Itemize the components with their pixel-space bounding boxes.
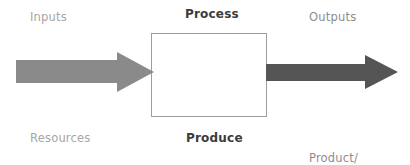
input-arrow-icon	[16, 50, 154, 94]
label-process: Process	[185, 7, 239, 21]
output-arrow-icon	[266, 53, 398, 91]
process-diagram-canvas: Inputs Process Outputs Resources Produce…	[0, 0, 410, 165]
label-resources: Resources	[30, 132, 91, 146]
label-outputs: Outputs	[309, 11, 356, 25]
label-inputs: Inputs	[30, 11, 67, 25]
label-produce: Produce	[186, 131, 243, 145]
label-product-line-1: Product/	[309, 152, 358, 165]
process-box	[151, 33, 267, 117]
label-product-service: Product/ Service	[309, 125, 358, 165]
